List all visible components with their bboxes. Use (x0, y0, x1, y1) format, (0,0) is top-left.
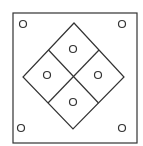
diagram-canvas (0, 0, 143, 146)
quadrant-circle-bottom (70, 99, 77, 106)
quadrant-circle-right (95, 72, 102, 79)
quadrant-circle-top (70, 46, 77, 53)
quadrant-circle-left (44, 72, 51, 79)
corner-circle-bottom-right (119, 125, 126, 132)
corner-circle-top-left (20, 21, 27, 28)
corner-circle-top-right (119, 21, 126, 28)
corner-circles-group (18, 21, 126, 132)
corner-circle-bottom-left (18, 125, 25, 132)
